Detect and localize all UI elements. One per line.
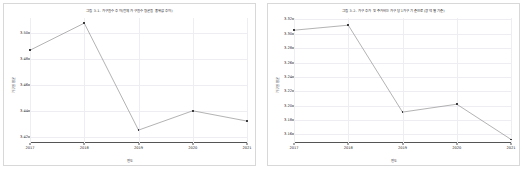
series-layer	[30, 18, 247, 143]
series-layer	[294, 18, 511, 143]
x-axis-label-right: 연도	[268, 158, 519, 163]
x-tick-mark	[138, 143, 139, 145]
data-point-marker	[83, 22, 85, 24]
x-tick-label: 2020	[188, 146, 197, 150]
x-tick-label: 2017	[289, 146, 298, 150]
plot-area-right: 가구원 평균 연도 3.163.183.203.223.243.263.283.…	[268, 4, 519, 165]
x-tick-label: 2018	[344, 146, 353, 150]
x-tick-mark	[402, 143, 403, 145]
y-tick-label: 3.46	[20, 83, 28, 87]
y-tick-label: 3.22	[284, 89, 292, 93]
data-point-marker	[402, 111, 404, 113]
x-gridline	[511, 18, 512, 143]
x-tick-label: 2019	[134, 146, 143, 150]
y-tick-label: 3.18	[284, 118, 292, 122]
y-tick-label: 3.26	[284, 61, 292, 65]
y-tick-label: 3.48	[20, 57, 28, 61]
x-tick-label: 2021	[506, 146, 515, 150]
x-tick-mark	[192, 143, 193, 145]
y-tick-label: 3.32	[284, 17, 292, 21]
data-point-marker	[138, 129, 140, 131]
y-tick-label: 3.20	[284, 104, 292, 108]
x-tick-label: 2020	[452, 146, 461, 150]
data-point-marker	[29, 49, 31, 51]
y-axis-label-left: 가구원 평균	[11, 76, 16, 92]
y-tick-label: 3.42	[20, 135, 28, 139]
x-tick-mark	[511, 143, 512, 145]
x-tick-mark	[294, 143, 295, 145]
x-tick-label: 2017	[25, 146, 34, 150]
axes-right: 3.163.183.203.223.243.263.283.303.322017…	[294, 18, 511, 143]
chart-panel-right: 그림 3-2. 가구 추가 및 주거비는 가구당 1가구 기준으로 (광역 별 …	[267, 3, 520, 166]
x-tick-label: 2021	[242, 146, 251, 150]
x-tick-label: 2018	[80, 146, 89, 150]
chart-panel-left: 그림 3-1. 가구원수 추이(전체 가구원수 평균을 중위값 추이) 가구원 …	[3, 3, 256, 166]
y-tick-label: 3.50	[20, 31, 28, 35]
y-tick-label: 3.24	[284, 75, 292, 79]
x-tick-label: 2019	[398, 146, 407, 150]
data-point-marker	[192, 110, 194, 112]
data-point-marker	[246, 120, 248, 122]
dual-chart-board: 그림 3-1. 가구원수 추이(전체 가구원수 평균을 중위값 추이) 가구원 …	[0, 0, 523, 169]
x-tick-mark	[30, 143, 31, 145]
axes-left: 3.423.443.463.483.5020172018201920202021	[30, 18, 247, 143]
x-gridline	[247, 18, 248, 143]
y-tick-label: 3.44	[20, 109, 28, 113]
data-point-marker	[293, 29, 295, 31]
x-tick-mark	[84, 143, 85, 145]
y-tick-label: 3.28	[284, 46, 292, 50]
plot-area-left: 가구원 평균 연도 3.423.443.463.483.502017201820…	[4, 4, 255, 165]
data-point-marker	[456, 103, 458, 105]
data-point-marker	[347, 24, 349, 26]
data-point-marker	[510, 139, 512, 141]
x-tick-mark	[456, 143, 457, 145]
y-tick-label: 3.30	[284, 32, 292, 36]
y-axis-label-right: 가구원 평균	[275, 76, 280, 92]
series-line	[294, 25, 511, 139]
x-tick-mark	[348, 143, 349, 145]
series-line	[30, 23, 247, 130]
x-tick-mark	[247, 143, 248, 145]
y-tick-label: 3.16	[284, 132, 292, 136]
x-axis-label-left: 연도	[4, 158, 255, 163]
